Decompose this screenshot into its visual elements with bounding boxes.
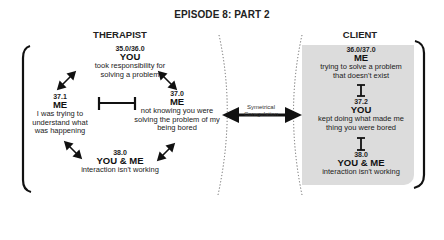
therapist-node-you: 35.0/36.0 YOU took responsibility for so…: [75, 45, 185, 79]
client-node-you-me: 38.0 YOU & ME interaction isn't working: [306, 151, 416, 177]
double-arrow-icon: [58, 72, 75, 89]
client-node-you: 37.2 YOU kept doing what made me thing y…: [306, 98, 416, 132]
coregulation-label: Symetrical Coregulation: [240, 104, 282, 117]
blocked-bar-icon: [99, 97, 135, 110]
node-description: not knowing you were solving the problem…: [133, 107, 221, 133]
node-description: trying to solve a problem that doesn't e…: [313, 63, 409, 80]
node-description: I was trying to understand what was happ…: [29, 110, 91, 136]
node-description: interaction isn't working: [70, 166, 170, 175]
node-description: kept doing what made me thing you were b…: [311, 115, 411, 132]
therapist-node-me-371: 37.1 ME I was trying to understand what …: [29, 93, 91, 136]
vertical-double-arrow-icon: [357, 138, 365, 150]
therapist-node-you-me: 38.0 YOU & ME interaction isn't working: [70, 149, 170, 175]
coregulation-label-line1: Symetrical: [240, 104, 282, 111]
vertical-double-arrow-icon: [357, 85, 365, 96]
client-node-me: 36.0/37.0 ME trying to solve a problem t…: [306, 46, 416, 80]
node-description: took responsibility for solving a proble…: [86, 62, 174, 79]
coregulation-label-line2: Coregulation: [240, 111, 282, 118]
therapist-node-me-370: 37.0 ME not knowing you were solving the…: [133, 90, 221, 133]
node-description: interaction isn't working: [306, 168, 416, 177]
